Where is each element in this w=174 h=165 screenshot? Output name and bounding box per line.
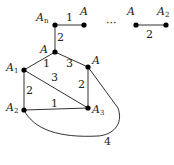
edge-weight-label: 4 bbox=[104, 135, 111, 148]
node-label: A1 bbox=[5, 61, 18, 75]
edge-weight-label: 3 bbox=[66, 57, 73, 70]
node-A2 bbox=[21, 107, 26, 112]
node-label: A2 bbox=[156, 5, 169, 19]
edge-weight-label: 1 bbox=[51, 97, 58, 110]
graph-diagram: 1221332214AnAAA2AA1AA2A3 ··· bbox=[0, 0, 174, 165]
edge-weight-label: 1 bbox=[66, 11, 73, 24]
node-A_top bbox=[81, 22, 86, 27]
ellipsis: ··· bbox=[106, 17, 117, 30]
node-A1 bbox=[21, 67, 26, 72]
node-label: A bbox=[126, 5, 135, 18]
labels-layer: 1221332214AnAAA2AA1AA2A3 bbox=[5, 5, 169, 148]
node-A_center bbox=[52, 49, 57, 54]
edge-weight-label: 2 bbox=[146, 28, 153, 41]
edge-weight-label: 2 bbox=[78, 78, 85, 91]
edge-weight-label: 3 bbox=[51, 71, 58, 84]
graph-svg: 1221332214AnAAA2AA1AA2A3 ··· bbox=[0, 0, 174, 165]
node-label: An bbox=[35, 11, 49, 25]
curved-edges-layer bbox=[24, 67, 120, 136]
node-label: A bbox=[91, 54, 100, 67]
node-A2_rightgrp bbox=[163, 22, 168, 27]
edge-weight-label: 1 bbox=[43, 57, 50, 70]
node-label: A bbox=[39, 43, 48, 56]
edge-weight-label: 2 bbox=[57, 31, 64, 44]
node-A3 bbox=[85, 105, 90, 110]
node-label: A3 bbox=[91, 103, 104, 117]
node-An_top bbox=[52, 22, 57, 27]
edge-a-right-a2-curved bbox=[24, 67, 120, 136]
edge-weight-label: 2 bbox=[26, 84, 33, 97]
node-A_rightgrp bbox=[133, 22, 138, 27]
node-label: A2 bbox=[5, 101, 18, 115]
node-A_right bbox=[85, 64, 90, 69]
node-label: A bbox=[79, 5, 88, 18]
